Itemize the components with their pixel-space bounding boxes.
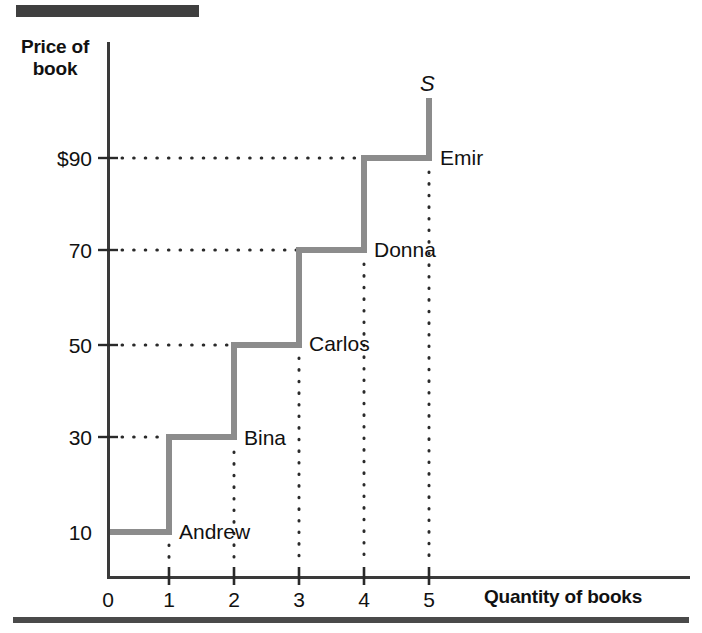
supply-curve-figure: Price of book Quantity of books $90 <box>0 0 702 633</box>
y-tick-label-70: 70 <box>24 240 92 261</box>
point-label-emir: Emir <box>440 147 483 168</box>
point-label-bina: Bina <box>244 427 286 448</box>
y-tick-label-30: 30 <box>24 427 92 448</box>
point-label-donna: Donna <box>374 239 436 260</box>
x-tick-label-1: 1 <box>154 589 184 610</box>
y-tick-label-50: 50 <box>24 335 92 356</box>
x-tick-label-2: 2 <box>219 589 249 610</box>
x-tick-label-0: 0 <box>93 589 123 610</box>
point-label-carlos: Carlos <box>309 333 370 354</box>
y-tick-label-10: 10 <box>24 522 92 543</box>
x-tick-label-5: 5 <box>414 589 444 610</box>
x-tick-label-3: 3 <box>284 589 314 610</box>
curve-label-s: S <box>420 73 435 95</box>
supply-step-curve <box>110 98 429 532</box>
point-label-andrew: Andrew <box>179 521 250 542</box>
plot-area <box>0 0 702 633</box>
y-tick-label-90: $90 <box>24 148 92 169</box>
x-tick-label-4: 4 <box>349 589 379 610</box>
